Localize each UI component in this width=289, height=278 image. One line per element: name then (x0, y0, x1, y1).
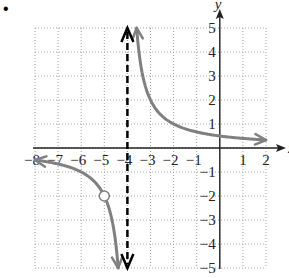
x-tick-label: −6 (70, 152, 86, 168)
y-tick-label: −1 (200, 164, 216, 180)
curve-left-branch (35, 160, 118, 268)
hole-open-circle (99, 191, 109, 201)
y-tick-label: 2 (208, 92, 216, 108)
bullet-marker: • (3, 0, 9, 17)
curve-right-branch (137, 28, 266, 140)
x-tick-label: 2 (262, 152, 270, 168)
y-tick-label: 4 (208, 44, 216, 60)
x-tick-label: −5 (93, 152, 109, 168)
y-tick-label: 1 (208, 116, 216, 132)
x-tick-label: −3 (140, 152, 156, 168)
y-tick-label: −3 (200, 212, 216, 228)
y-tick-label: −4 (200, 236, 216, 252)
y-tick-label: 3 (208, 68, 216, 84)
y-tick-label: −2 (200, 188, 216, 204)
y-tick-label: 5 (208, 20, 216, 36)
y-tick-label: −5 (200, 260, 216, 276)
chart: • xy −8−7−6−5−4−3−2−112−5−4−3−2−112345 (0, 0, 289, 278)
x-tick-label: −4 (116, 152, 132, 168)
x-axis-label: x (287, 140, 289, 156)
y-axis-label: y (213, 0, 222, 12)
x-tick-label: −2 (163, 152, 179, 168)
axes: xy (33, 0, 289, 269)
x-tick-label: 1 (239, 152, 247, 168)
